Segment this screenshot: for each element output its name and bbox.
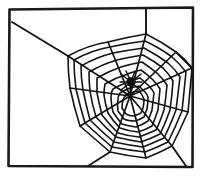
spider-web-illustration [0,0,202,176]
anchor-thread-top-left [12,22,68,56]
spider-web-drawing [0,0,202,176]
spider [120,71,142,93]
spider-abdomen [127,78,136,87]
anchor-thread-bottom-left [88,152,110,166]
anchor-threads [12,9,192,166]
anchor-thread-bottom-right [172,146,186,166]
